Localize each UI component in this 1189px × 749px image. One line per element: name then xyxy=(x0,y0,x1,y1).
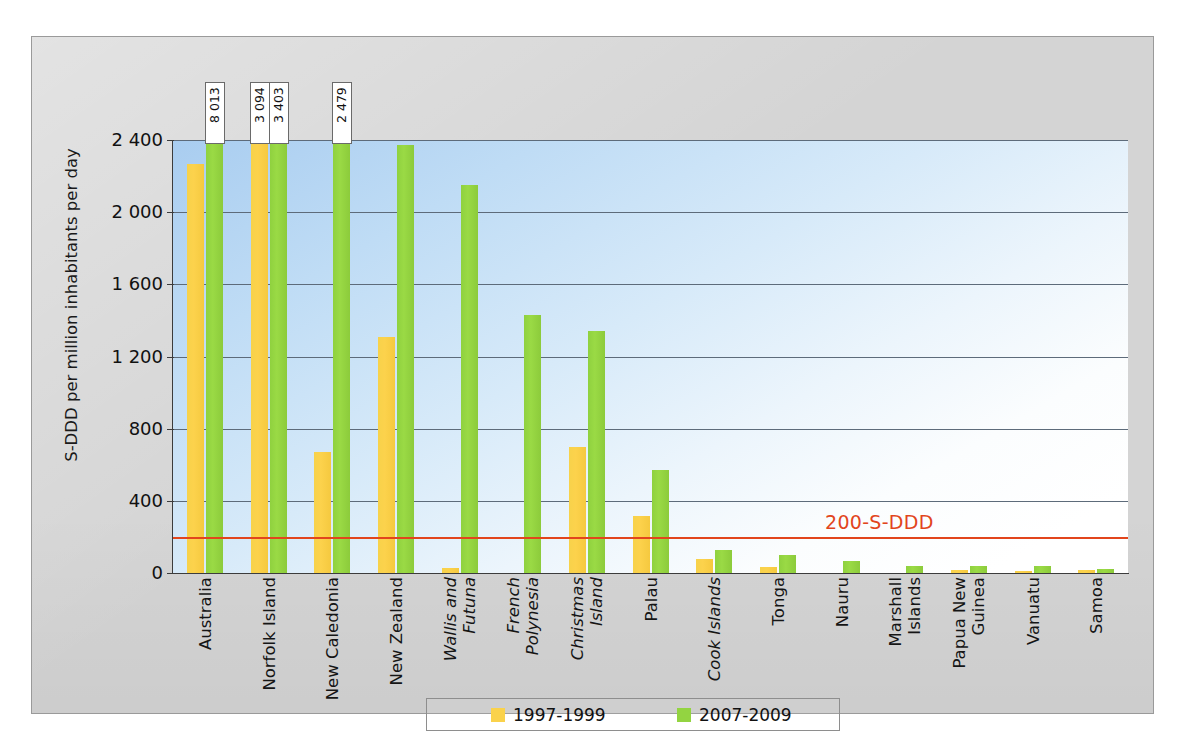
value-callout-label: 3 403 xyxy=(269,105,289,123)
bar-series2 xyxy=(1097,569,1114,574)
y-tick-label: 2 000 xyxy=(73,201,163,222)
x-category-label: Cook Islands xyxy=(694,577,734,707)
x-category-label: New Caledonia xyxy=(312,577,352,707)
y-tick-mark xyxy=(167,212,174,213)
bar-series2 xyxy=(1034,566,1051,573)
bar-series1 xyxy=(1078,570,1095,573)
threshold-label-200-s-ddd: 200-S-DDD xyxy=(825,511,934,533)
x-axis-line xyxy=(172,573,1129,574)
x-category-label: Christmas Island xyxy=(567,577,607,707)
bar-series2 xyxy=(461,185,478,573)
x-category-label-text: Samoa xyxy=(1087,577,1106,707)
value-callout: 3 094 xyxy=(250,82,270,144)
y-tick-label: 1 600 xyxy=(73,273,163,294)
x-category-label: Marshall Islands xyxy=(885,577,925,707)
value-callout-label: 2 479 xyxy=(332,105,352,123)
bar-series1 xyxy=(187,164,204,573)
legend-label: 2007-2009 xyxy=(699,705,792,725)
x-category-label: Australia xyxy=(185,577,225,707)
x-category-label-text: Tonga xyxy=(768,577,787,707)
bar-series2 xyxy=(652,470,669,573)
bar-series2 xyxy=(779,555,796,573)
x-category-label-text: Cook Islands xyxy=(705,577,724,707)
value-callout: 8 013 xyxy=(205,82,225,144)
legend-swatch xyxy=(491,708,505,722)
threshold-line-200-s-ddd xyxy=(173,537,1128,539)
x-category-label-text: Norfolk Island xyxy=(259,577,278,707)
x-category-label: Palau xyxy=(631,577,671,707)
value-callout: 3 403 xyxy=(269,82,289,144)
gridline xyxy=(173,429,1128,430)
y-tick-label: 0 xyxy=(73,562,163,583)
bar-series1 xyxy=(314,452,331,573)
bar-series2 xyxy=(843,561,860,573)
bar-series1 xyxy=(1015,571,1032,573)
bar-series2 xyxy=(970,566,987,573)
bar-series1 xyxy=(251,140,268,573)
y-tick-mark xyxy=(167,140,174,141)
x-category-label: Papua New Guinea xyxy=(949,577,989,707)
y-tick-mark xyxy=(167,573,174,574)
value-callout: 2 479 xyxy=(332,82,352,144)
y-axis-title: S-DDD per million inhabitants per day xyxy=(62,0,81,95)
x-category-label: New Zealand xyxy=(376,577,416,707)
x-category-label-text: Palau xyxy=(641,577,660,707)
y-tick-labels: 04008001 2001 6002 0002 400 xyxy=(69,140,163,573)
bar-series2 xyxy=(397,145,414,573)
y-tick-label: 400 xyxy=(73,490,163,511)
gridline xyxy=(173,284,1128,285)
x-category-label: Samoa xyxy=(1076,577,1116,707)
bar-series1 xyxy=(951,570,968,573)
bar-series2 xyxy=(333,140,350,573)
x-category-label-text: Australia xyxy=(195,577,214,707)
x-category-label: Wallis and Futuna xyxy=(440,577,480,707)
bar-series2 xyxy=(206,140,223,573)
x-category-labels: AustraliaNorfolk IslandNew CaledoniaNew … xyxy=(173,577,1155,707)
y-tick-label: 1 200 xyxy=(73,346,163,367)
x-category-label-text: Vanuatu xyxy=(1023,577,1042,707)
x-category-label: Norfolk Island xyxy=(249,577,289,707)
bar-series2 xyxy=(715,550,732,573)
legend-label: 1997-1999 xyxy=(513,705,606,725)
bar-series2 xyxy=(524,315,541,573)
x-category-label: Tonga xyxy=(758,577,798,707)
legend-item[interactable]: 2007-2009 xyxy=(677,705,792,725)
value-callout-label: 8 013 xyxy=(205,105,225,123)
x-category-label: Vanuatu xyxy=(1013,577,1053,707)
y-tick-label: 800 xyxy=(73,418,163,439)
bar-series1 xyxy=(569,447,586,573)
legend-swatch xyxy=(677,708,691,722)
value-callout-label: 3 094 xyxy=(250,105,270,123)
x-category-label-text: Nauru xyxy=(832,577,851,707)
x-category-label-text: Wallis and Futuna xyxy=(441,577,479,707)
bar-series1 xyxy=(760,567,777,573)
bar-series1 xyxy=(633,516,650,573)
x-category-label-text: French Polynesia xyxy=(504,577,542,707)
x-category-label-text: New Caledonia xyxy=(323,577,342,707)
legend: 1997-19992007-2009 xyxy=(426,698,840,731)
x-category-label-text: Christmas Island xyxy=(568,577,606,707)
gridline xyxy=(173,212,1128,213)
gridline xyxy=(173,357,1128,358)
y-tick-mark xyxy=(167,284,174,285)
chart-frame: S-DDD per million inhabitants per day 04… xyxy=(31,36,1154,714)
x-category-label-text: New Zealand xyxy=(386,577,405,707)
bar-series2 xyxy=(906,566,923,573)
bar-series2 xyxy=(270,140,287,573)
x-category-label: Nauru xyxy=(822,577,862,707)
bar-series1 xyxy=(442,568,459,573)
y-tick-mark xyxy=(167,501,174,502)
y-tick-label: 2 400 xyxy=(73,129,163,150)
x-category-label-text: Marshall Islands xyxy=(886,577,924,707)
gridline xyxy=(173,140,1128,141)
legend-item[interactable]: 1997-1999 xyxy=(491,705,606,725)
y-tick-mark xyxy=(167,429,174,430)
x-category-label-text: Papua New Guinea xyxy=(950,577,988,707)
bar-series1 xyxy=(696,559,713,573)
plot-area: 04008001 2001 6002 0002 400 200-S-DDD 8 … xyxy=(173,104,1155,604)
x-category-label: French Polynesia xyxy=(503,577,543,707)
y-tick-mark xyxy=(167,357,174,358)
